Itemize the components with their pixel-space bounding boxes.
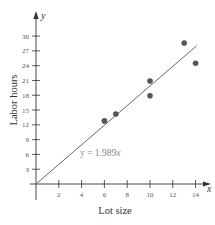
x-tick-label: 10 [147, 191, 155, 199]
y-tick-label: 9 [26, 136, 30, 144]
data-points [102, 40, 199, 123]
axes [30, 11, 211, 200]
equation-variable: x [115, 148, 121, 158]
y-tick-label: 15 [22, 107, 30, 115]
y-tick-label: 6 [26, 151, 30, 159]
y-axis-variable: y [40, 10, 46, 21]
data-point [147, 78, 153, 84]
y-axis-arrow-icon [33, 11, 38, 19]
data-point [193, 60, 199, 66]
equation-prefix: y = 1.989 [80, 148, 116, 158]
y-axis-label: Labor hours [8, 74, 19, 125]
x-axis-label: Lot size [98, 205, 132, 216]
y-tick-label: 21 [22, 77, 30, 85]
x-tick-label: 12 [169, 191, 177, 199]
y-tick-label: 27 [22, 47, 30, 55]
x-tick-label: 6 [103, 191, 107, 199]
ticks: 246810121436912151821242730 [22, 33, 200, 199]
data-point [147, 93, 153, 99]
y-tick-label: 12 [22, 121, 30, 129]
regression-equation: y = 1.989x [80, 148, 121, 158]
y-tick-label: 24 [22, 62, 30, 70]
data-point [102, 118, 108, 124]
y-tick-label: 3 [26, 166, 30, 174]
y-tick-label: 30 [22, 33, 30, 41]
x-axis-variable: x [206, 183, 212, 194]
scatter-chart: 246810121436912151821242730 Lot size Lab… [0, 0, 215, 225]
x-tick-label: 8 [125, 191, 129, 199]
x-tick-label: 4 [80, 191, 84, 199]
x-tick-label: 2 [57, 191, 61, 199]
y-tick-label: 18 [22, 92, 30, 100]
data-point [181, 40, 187, 46]
x-tick-label: 14 [192, 191, 200, 199]
data-point [113, 111, 119, 117]
